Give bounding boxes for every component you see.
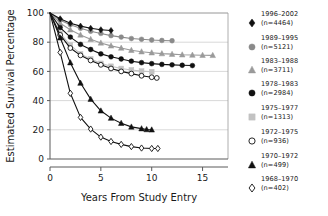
- legend-label-count: (n=402): [261, 184, 328, 193]
- data-point-marker: [249, 138, 255, 144]
- legend-label: 1978–1983(n=2984): [261, 80, 328, 97]
- data-point-marker: [119, 69, 124, 74]
- y-tick-label: 100: [27, 8, 44, 18]
- data-point-marker: [170, 38, 175, 43]
- legend-label-count: (n=1313): [261, 113, 328, 122]
- x-tick-label: 10: [146, 173, 158, 183]
- data-point-marker: [109, 66, 114, 71]
- survival-chart-figure: 020406080100 051015 Estimated Survival P…: [0, 0, 328, 216]
- data-point-marker: [249, 114, 255, 120]
- open-diamond-icon: [246, 179, 258, 191]
- data-point-marker: [129, 59, 134, 64]
- data-point-marker: [98, 51, 103, 56]
- data-point-marker: [78, 53, 83, 58]
- data-point-marker: [78, 42, 83, 47]
- legend-item-1968-1970[interactable]: 1968–1970(n=402): [246, 176, 328, 198]
- y-axis-ticks: 020406080100: [27, 8, 50, 164]
- legend-label-period: 1970–1972: [261, 152, 298, 160]
- legend-label: 1975–1977(n=1313): [261, 104, 328, 121]
- data-point-marker: [68, 35, 73, 40]
- legend-label-period: 1972–1975: [261, 128, 298, 136]
- legend-label-count: (n=2984): [261, 89, 328, 98]
- data-point-marker: [154, 76, 159, 81]
- data-point-marker: [139, 60, 144, 65]
- data-point-marker: [180, 63, 185, 68]
- data-point-marker: [58, 25, 63, 30]
- legend-label-count: (n=936): [261, 137, 328, 146]
- legend-item-1983-1988[interactable]: 1983–1988(n=3711): [246, 58, 328, 80]
- legend-label-count: (n=3711): [261, 66, 328, 75]
- data-point-marker: [129, 71, 134, 76]
- x-axis-label: Years From Study Entry: [80, 192, 197, 203]
- data-point-marker: [190, 63, 195, 68]
- legend-label-count: (n=499): [261, 161, 328, 170]
- plot-background: [50, 13, 228, 159]
- y-tick-label: 60: [33, 67, 45, 77]
- x-tick-label: 5: [98, 173, 104, 183]
- data-point-marker: [249, 19, 255, 27]
- filled-square-icon: [246, 108, 258, 120]
- data-point-marker: [129, 36, 134, 41]
- filled-circle-icon: [246, 38, 258, 50]
- x-tick-label: 15: [197, 173, 208, 183]
- data-point-marker: [159, 38, 164, 43]
- data-point-marker: [119, 57, 124, 62]
- data-point-marker: [159, 62, 164, 67]
- data-point-marker: [139, 73, 144, 78]
- data-point-marker: [139, 69, 144, 74]
- y-tick-label: 80: [33, 37, 45, 47]
- data-point-marker: [249, 184, 255, 192]
- data-point-marker: [149, 69, 154, 74]
- legend-label-period: 1975–1977: [261, 104, 298, 112]
- y-axis-label: Estimated Survival Percentage: [5, 9, 16, 162]
- legend-label: 1983–1988(n=3711): [261, 57, 328, 74]
- legend-label: 1968–1970(n=402): [261, 175, 328, 192]
- data-point-marker: [248, 161, 255, 168]
- data-point-marker: [139, 37, 144, 42]
- data-point-marker: [249, 90, 255, 96]
- x-tick-label: 0: [47, 173, 53, 183]
- filled-circle-icon: [246, 84, 258, 96]
- legend-label: 1972–1975(n=936): [261, 128, 328, 145]
- data-point-marker: [88, 47, 93, 52]
- open-circle-icon: [246, 132, 258, 144]
- x-axis-ticks: 051015: [47, 167, 208, 183]
- data-point-marker: [68, 46, 73, 51]
- legend-label-count: (n=4464): [261, 19, 328, 28]
- legend-item-1996-2002[interactable]: 1996–2002(n=4464): [246, 11, 328, 33]
- legend: 1996–2002(n=4464)1989–1995(n=5121)1983–1…: [246, 6, 328, 210]
- data-point-marker: [119, 35, 124, 40]
- legend-label-period: 1978–1983: [261, 80, 298, 88]
- data-point-marker: [149, 61, 154, 66]
- legend-item-1989-1995[interactable]: 1989–1995(n=5121): [246, 35, 328, 57]
- legend-label-period: 1996–2002: [261, 10, 298, 18]
- y-tick-label: 20: [33, 125, 45, 135]
- legend-label-count: (n=5121): [261, 43, 328, 52]
- data-point-marker: [98, 62, 103, 67]
- data-point-marker: [149, 75, 154, 80]
- filled-triangle-icon: [246, 61, 258, 73]
- legend-label-period: 1968–1970: [261, 175, 298, 183]
- y-tick-label: 40: [33, 96, 45, 106]
- legend-label-period: 1983–1988: [261, 57, 298, 65]
- legend-label-period: 1989–1995: [261, 34, 298, 42]
- filled-diamond-icon: [246, 14, 258, 26]
- legend-item-1975-1977[interactable]: 1975–1977(n=1313): [246, 105, 328, 127]
- data-point-marker: [149, 38, 154, 43]
- legend-item-1978-1983[interactable]: 1978–1983(n=2984): [246, 81, 328, 103]
- legend-label: 1970–1972(n=499): [261, 152, 328, 169]
- data-point-marker: [109, 54, 114, 59]
- filled-triangle-icon: [246, 156, 258, 168]
- legend-label: 1996–2002(n=4464): [261, 10, 328, 27]
- data-point-marker: [88, 58, 93, 63]
- legend-item-1970-1972[interactable]: 1970–1972(n=499): [246, 153, 328, 175]
- legend-label: 1989–1995(n=5121): [261, 34, 328, 51]
- data-point-marker: [170, 62, 175, 67]
- legend-item-1972-1975[interactable]: 1972–1975(n=936): [246, 129, 328, 151]
- y-tick-label: 0: [38, 154, 44, 164]
- data-point-marker: [248, 66, 255, 73]
- data-point-marker: [249, 44, 255, 50]
